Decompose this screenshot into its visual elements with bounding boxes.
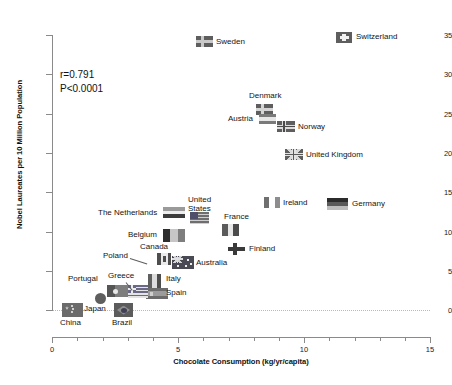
x-tick-12 [355,337,356,341]
china-flag-icon [62,303,83,317]
y-tick-20 [46,153,52,154]
correlation-p: P<0.0001 [60,82,103,96]
y-tick-label-15: 15 [426,188,452,197]
label-brazil: Brazil [112,319,132,327]
x-tick-14 [405,337,406,341]
label-austria: Austria [228,115,253,123]
label-norway: Norway [298,123,325,131]
netherlands-flag-icon [163,207,185,218]
y-tick-0 [46,310,52,311]
y-tick-10 [46,232,52,233]
x-tick-label-5: 5 [176,345,180,354]
norway-flag-icon [277,121,295,132]
y-axis-title: Nobel Laureates per 10 Million Populatio… [15,40,24,270]
x-tick-8 [254,337,255,341]
y-tick-label-20: 20 [426,149,452,158]
brazil-flag-icon [114,303,133,317]
correlation-r: r=0.791 [60,68,103,82]
y-tick-5 [46,271,52,272]
x-tick-4 [153,337,154,341]
x-tick-label-10: 10 [300,345,308,354]
x-tick-2 [103,337,104,341]
label-belgium: Belgium [128,231,157,239]
scatter-plot: 35 30 25 20 15 10 5 0 0 5 10 15 Nobel La… [0,0,452,385]
x-tick-label-0: 0 [50,345,54,354]
zero-reference-line [53,310,430,311]
x-tick-1 [77,337,78,341]
switzerland-flag-icon [336,32,352,43]
y-tick-25 [46,114,52,115]
spain-flag-icon [146,288,168,299]
label-united-states-line2: States [188,204,211,213]
ireland-flag-icon [264,197,280,208]
canada-flag-icon [157,253,171,265]
x-tick-13 [380,337,381,341]
label-china: China [60,319,81,327]
label-switzerland: Switzerland [356,33,397,41]
label-ireland: Ireland [283,199,307,207]
austria-flag-icon [259,114,276,124]
label-japan: Japan [84,305,106,313]
x-tick-label-15: 15 [426,345,434,354]
label-finland: Finland [249,245,275,253]
united-kingdom-flag-icon [285,149,303,160]
y-tick-label-10: 10 [426,228,452,237]
x-tick-9 [279,337,280,341]
x-tick-11 [329,337,330,341]
label-united-kingdom: United Kingdom [306,151,363,159]
label-poland: Poland [103,252,128,260]
label-canada: Canada [140,243,168,251]
x-axis-line [52,337,430,338]
france-flag-icon [222,224,239,236]
y-tick-label-0: 0 [426,306,452,315]
label-spain: Spain [166,289,186,297]
australia-flag-icon [172,256,194,269]
japan-flag-icon [95,293,106,304]
x-tick-3 [128,337,129,341]
germany-flag-icon [327,198,348,210]
portugal-flag-icon [107,285,128,297]
label-portugal: Portugal [68,275,98,283]
greece-flag-icon [128,285,148,298]
y-tick-label-5: 5 [426,267,452,276]
finland-flag-icon [228,243,245,255]
poland-leader-line [130,258,147,265]
y-tick-label-25: 25 [426,110,452,119]
y-tick-label-35: 35 [426,31,452,40]
label-united-states: United States [188,196,228,213]
label-france: France [224,213,249,221]
y-axis-line [52,35,53,311]
y-tick-15 [46,192,52,193]
label-greece: Greece [108,272,134,280]
label-denmark: Denmark [249,92,281,100]
y-tick-35 [46,35,52,36]
sweden-flag-icon [196,36,213,47]
y-tick-label-30: 30 [426,70,452,79]
correlation-annotation: r=0.791 P<0.0001 [60,68,103,95]
x-tick-5 [178,337,179,343]
label-sweden: Sweden [216,38,245,46]
italy-flag-icon [148,274,161,288]
label-netherlands: The Netherlands [98,209,157,217]
x-axis-title: Chocolate Consumption (kg/yr/capita) [52,357,430,366]
label-australia: Australia [196,259,227,267]
y-tick-30 [46,74,52,75]
x-tick-7 [229,337,230,341]
x-tick-6 [203,337,204,341]
label-germany: Germany [352,200,385,208]
united-states-flag-icon [190,212,209,224]
x-tick-15 [430,337,431,343]
belgium-flag-icon [163,229,185,242]
x-tick-10 [304,337,305,343]
x-tick-0 [52,337,53,343]
label-italy: Italy [166,275,181,283]
